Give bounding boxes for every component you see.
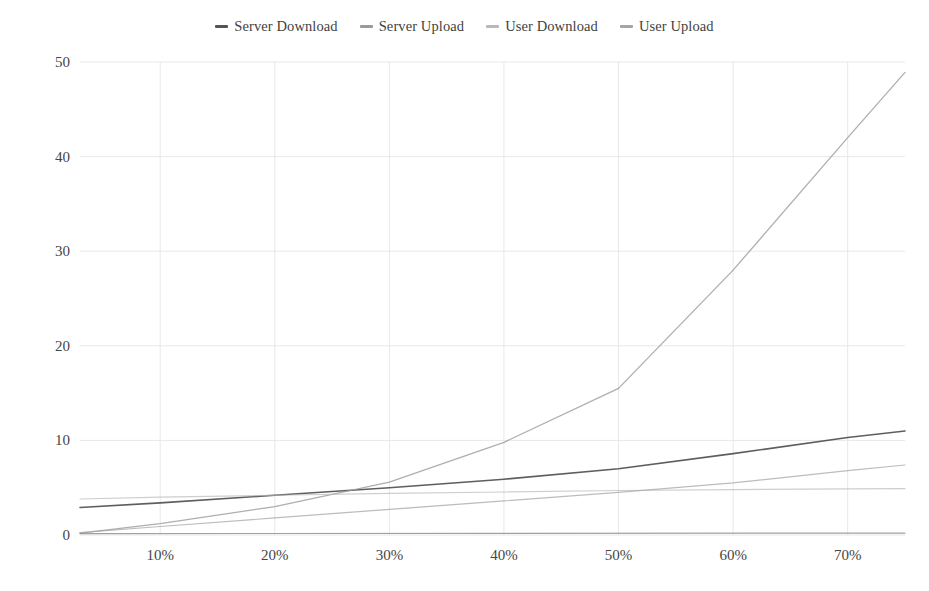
grid-lines [80, 62, 905, 535]
y-axis-tick-label: 30 [36, 243, 70, 260]
x-axis-tick-label: 30% [359, 547, 419, 564]
line-chart: Server Download Server Upload User Downl… [0, 0, 929, 591]
y-axis-tick-label: 50 [36, 54, 70, 71]
series-line-server-upload [80, 72, 905, 533]
series-line-user-upload [80, 465, 905, 533]
series-lines [80, 72, 905, 533]
plot-canvas [0, 0, 929, 591]
x-axis-tick-label: 70% [818, 547, 878, 564]
x-axis-tick-label: 60% [703, 547, 763, 564]
x-axis-tick-label: 40% [474, 547, 534, 564]
y-axis-tick-label: 0 [36, 527, 70, 544]
x-axis-tick-label: 10% [130, 547, 190, 564]
x-axis-tick-label: 50% [589, 547, 649, 564]
x-axis-tick-label: 20% [245, 547, 305, 564]
series-line-user-download [80, 489, 905, 499]
y-axis-tick-label: 20 [36, 337, 70, 354]
y-axis-tick-label: 10 [36, 432, 70, 449]
plot-area: 01020304050 10%20%30%40%50%60%70% [0, 0, 929, 591]
y-axis-tick-label: 40 [36, 148, 70, 165]
